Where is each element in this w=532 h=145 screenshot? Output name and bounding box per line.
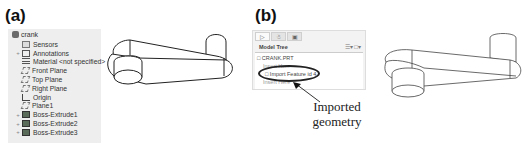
- plane-icon: [21, 76, 31, 83]
- material-icon: [22, 58, 30, 65]
- panel-a-label: (a): [5, 6, 26, 26]
- tree-root-label: crank: [21, 31, 38, 38]
- expand-icon[interactable]: +: [14, 50, 22, 56]
- tree-item-annotations[interactable]: +Annotations: [14, 49, 105, 58]
- origin-icon: [22, 94, 30, 101]
- panel-b-label: (b): [255, 6, 277, 26]
- model-tree-tab-icon: ▷: [260, 33, 265, 40]
- model-tree-title: Model Tree: [259, 44, 288, 50]
- expand-icon[interactable]: +: [14, 129, 22, 135]
- tree-root[interactable]: crank: [12, 31, 38, 38]
- expand-icon[interactable]: +: [14, 112, 22, 118]
- tree-item-sensors[interactable]: Sensors: [14, 40, 105, 49]
- tree-item-boss-extrude1[interactable]: +Boss-Extrude1: [14, 110, 105, 119]
- sensor-icon: [22, 41, 30, 48]
- folder-tab-icon: ☃: [276, 33, 281, 40]
- tree-node-crank-prt[interactable]: □ CRANK.PRT: [257, 55, 294, 61]
- part-icon: [12, 31, 19, 38]
- expand-icon[interactable]: +: [14, 121, 22, 127]
- tree-item-material[interactable]: Material <not specified>: [14, 58, 105, 67]
- extrude-icon: [22, 129, 30, 136]
- model-tree-settings-button[interactable]: ☰▾ □▾: [345, 43, 361, 50]
- tree-item-boss-extrude3[interactable]: +Boss-Extrude3: [14, 128, 105, 137]
- plane-icon: [21, 85, 31, 92]
- crank-model-b: [372, 22, 532, 122]
- tree-item-origin[interactable]: Origin: [14, 93, 105, 102]
- tree-item-boss-extrude2[interactable]: +Boss-Extrude2: [14, 119, 105, 128]
- tree-item-top-plane[interactable]: Top Plane: [14, 75, 105, 84]
- extrude-icon: [22, 120, 30, 127]
- tree-item-plane1[interactable]: Plane1: [14, 102, 105, 111]
- tree-item-front-plane[interactable]: Front Plane: [14, 66, 105, 75]
- feature-tree-panel: crank Sensors +Annotations Material <not…: [8, 29, 101, 143]
- plane-icon: [21, 67, 31, 74]
- annotations-icon: [22, 50, 30, 57]
- plane-icon: [21, 102, 31, 109]
- extrude-icon: [22, 111, 30, 118]
- crank-model-a: [98, 20, 238, 120]
- imported-geometry-callout: Imported geometry: [292, 99, 382, 129]
- tree-item-right-plane[interactable]: Right Plane: [14, 84, 105, 93]
- tab-model-tree[interactable]: ▷: [255, 32, 270, 41]
- tab-folder-browser[interactable]: ☃: [271, 32, 286, 41]
- tab-favorites[interactable]: ▣: [287, 32, 302, 41]
- favorites-tab-icon: ▣: [292, 33, 298, 40]
